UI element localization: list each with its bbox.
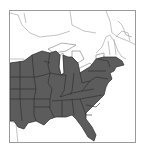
province-line (106, 11, 136, 45)
quebec-line (118, 21, 132, 37)
range-map (9, 10, 136, 143)
map-svg (10, 11, 136, 143)
province-line (70, 11, 96, 33)
range-area (10, 51, 124, 141)
nh-line (114, 39, 116, 55)
vermont-line (108, 41, 110, 55)
province-line (24, 13, 26, 23)
maine-outline (116, 31, 130, 41)
canada-border-line (10, 13, 70, 37)
